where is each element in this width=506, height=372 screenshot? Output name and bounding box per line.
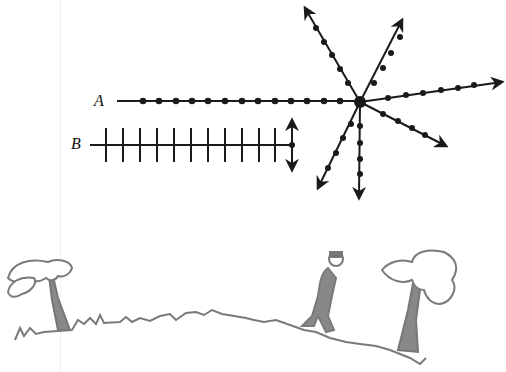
wave-b [90,120,295,170]
wave-diagram [0,0,506,372]
tree-left [8,260,72,330]
tree-right [382,250,456,352]
grass-hill [15,310,426,364]
man-figure [302,252,343,332]
label-a: A [94,92,104,110]
starburst [305,8,502,198]
wave-a [117,98,360,105]
landscape [8,250,456,364]
label-b: B [71,135,81,153]
